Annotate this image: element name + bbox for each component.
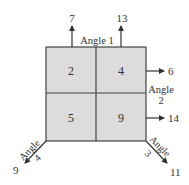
angle3-label-line2: 3 — [143, 148, 154, 159]
angle4-label-line2: 4 — [32, 152, 43, 163]
angle1-output-left: 7 — [69, 12, 75, 24]
cell-r0-c0: 2 — [68, 64, 74, 78]
grid — [46, 47, 146, 141]
cell-r1-c0: 5 — [68, 111, 74, 125]
cell-r0-c1: 4 — [118, 64, 124, 78]
angle-grid-diagram: 2 4 5 9 7 13 Angle 1 6 14 Angle 2 11 Ang… — [0, 0, 189, 185]
cell-r1-c1: 9 — [118, 111, 124, 125]
angle1-label: Angle 1 — [80, 35, 114, 46]
angle2-output-bottom: 14 — [168, 112, 180, 124]
angle2-label-line1: Angle — [148, 84, 174, 95]
angle3-output: 11 — [170, 166, 181, 178]
angle1-output-right: 13 — [117, 12, 129, 24]
angle2-output-top: 6 — [168, 65, 174, 77]
angle4-output: 9 — [13, 164, 19, 176]
angle2-label-line2: 2 — [158, 95, 163, 106]
